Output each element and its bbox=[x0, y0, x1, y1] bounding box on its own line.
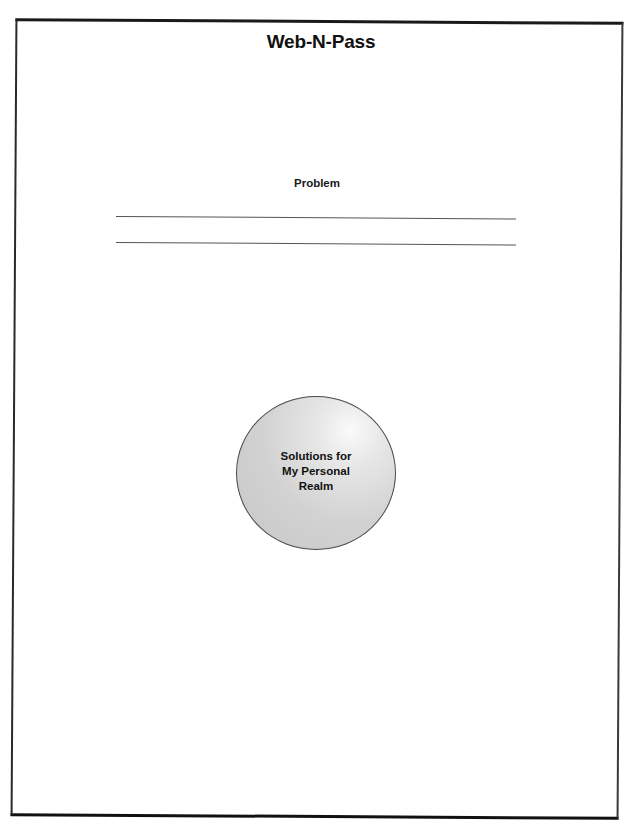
solutions-circle-text: Solutions for My Personal Realm bbox=[281, 449, 352, 494]
solutions-circle: Solutions for My Personal Realm bbox=[236, 396, 396, 550]
problem-label: Problem bbox=[0, 177, 634, 189]
circle-text-line-2: My Personal bbox=[281, 464, 352, 479]
circle-text-line-3: Realm bbox=[281, 479, 352, 494]
page-title: Web-N-Pass bbox=[0, 31, 642, 53]
circle-text-line-1: Solutions for bbox=[281, 449, 352, 464]
